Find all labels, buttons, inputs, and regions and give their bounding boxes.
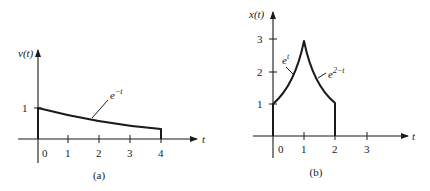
annotation-leader (92, 100, 108, 118)
chart-panel-b: x(t) t 1 2 3 0 1 2 3 et e2−t (b) (248, 8, 416, 179)
annotation-leader-left (286, 67, 293, 74)
y-tick-label: 1 (22, 102, 28, 114)
x-tick-label: 3 (364, 143, 370, 155)
y-tick-label: 3 (257, 33, 263, 45)
y-axis-label: v(t) (18, 47, 34, 60)
x-axis-label: t (412, 130, 416, 142)
x-tick-label: 0 (42, 147, 48, 159)
x-axis-label: t (202, 133, 206, 145)
panel-caption: (b) (310, 166, 323, 179)
y-tick-label: 1 (257, 98, 263, 110)
x-tick-label: 2 (332, 143, 338, 155)
annotation-leader-right (318, 73, 326, 78)
y-axis-label: x(t) (248, 8, 265, 21)
curve-label-left: et (282, 52, 290, 66)
x-tick-label: 2 (96, 147, 102, 159)
curve-label: e−t (110, 87, 123, 101)
x-tick-label: 3 (127, 147, 133, 159)
chart-panel-a: v(t) t 1 0 1 2 3 4 e−t (a) (18, 47, 206, 182)
figure-canvas: v(t) t 1 0 1 2 3 4 e−t (a) x(t) t (0, 0, 430, 191)
x-tick-label: 4 (158, 147, 164, 159)
x-tick-label: 0 (278, 143, 284, 155)
x-tick-label: 1 (301, 143, 307, 155)
curve-label-right: e2−t (328, 66, 345, 80)
panel-caption: (a) (93, 169, 106, 182)
decay-curve (38, 108, 161, 139)
x-tick-label: 1 (65, 147, 71, 159)
y-tick-label: 2 (257, 66, 263, 78)
